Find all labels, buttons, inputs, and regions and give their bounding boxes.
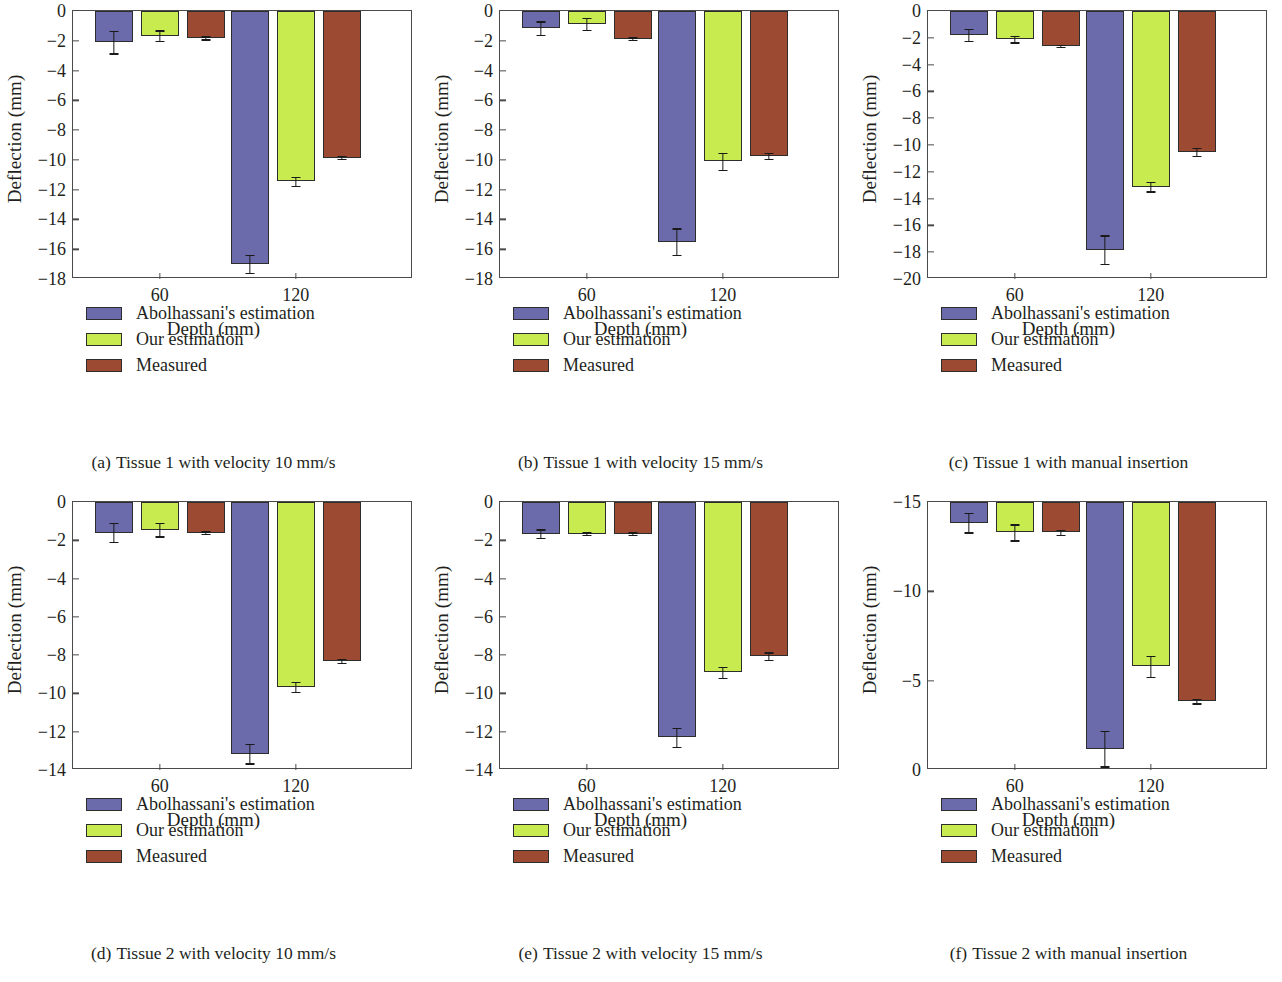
chart-b: Deflection (mm)0−2−4−6−8−10−12−14−16−186… [427, 0, 854, 300]
y-tick-mark [928, 91, 934, 92]
error-bar-cap [1010, 540, 1019, 541]
error-bar-cap [1056, 45, 1065, 46]
plot-area: 0−2−4−6−8−10−12−14−16−1860120 [72, 10, 412, 278]
bar-b-120-s0 [658, 11, 696, 242]
bar-c-120-s1 [1132, 11, 1170, 187]
y-tick-mark [73, 616, 79, 617]
error-bar [1150, 656, 1151, 677]
error-bar-cap [964, 532, 973, 533]
y-tick-mark [500, 159, 506, 160]
error-bar-cap [155, 30, 164, 31]
error-bar-cap [245, 744, 254, 745]
legend-f: Abolhassani's estimationOur estimationMe… [855, 791, 1282, 869]
error-bar-cap [536, 35, 545, 36]
y-tick-label: −16 [893, 215, 928, 236]
y-tick-label: −4 [47, 60, 73, 81]
error-bar-cap [628, 532, 637, 533]
bar-d-60-s2 [187, 502, 225, 533]
error-bar [586, 18, 587, 30]
error-bar-cap [582, 30, 591, 31]
error-bar-cap [964, 41, 973, 42]
error-bar-cap [291, 682, 300, 683]
plot-area: −15−10−5060120 [927, 501, 1267, 769]
panel-caption-e: (e)Tissue 2 with velocity 15 mm/s [427, 943, 854, 964]
error-bar-cap [628, 37, 637, 38]
y-tick-label: −14 [893, 188, 928, 209]
error-bar [722, 667, 723, 678]
y-tick-mark [500, 693, 506, 694]
bar-c-120-s0 [1086, 11, 1124, 250]
error-bar-cap [718, 667, 727, 668]
y-tick-mark [73, 189, 79, 190]
y-tick-label: −2 [47, 30, 73, 51]
legend-item: Measured [0, 352, 427, 378]
y-tick-mark [500, 100, 506, 101]
legend-item: Measured [0, 843, 427, 869]
y-axis-label: Deflection (mm) [429, 491, 455, 769]
x-tick-mark [159, 764, 160, 770]
error-bar-cap [672, 228, 681, 229]
y-tick-label: −2 [474, 30, 500, 51]
chart-panel-b: Deflection (mm)0−2−4−6−8−10−12−14−16−186… [427, 0, 854, 491]
error-bar-cap [1192, 156, 1201, 157]
figure-sheet: Deflection (mm)0−2−4−6−8−10−12−14−16−186… [0, 0, 1282, 982]
y-tick-label: −16 [38, 239, 73, 260]
y-tick-label: 0 [912, 760, 928, 781]
legend-label: Abolhassani's estimation [136, 303, 315, 324]
legend-item: Our estimation [427, 326, 854, 352]
legend-swatch [86, 850, 122, 863]
error-bar-cap [109, 53, 118, 54]
legend-label: Our estimation [136, 820, 243, 841]
legend-item: Our estimation [0, 326, 427, 352]
error-bar-cap [672, 747, 681, 748]
y-tick-label: −14 [38, 760, 73, 781]
y-tick-mark [500, 578, 506, 579]
legend-label: Abolhassani's estimation [136, 794, 315, 815]
panel-caption-text: Tissue 1 with velocity 15 mm/s [543, 452, 763, 472]
legend-c: Abolhassani's estimationOur estimationMe… [855, 300, 1282, 378]
y-tick-label: −8 [902, 108, 928, 129]
y-tick-label: −10 [465, 149, 500, 170]
y-axis-label-text: Deflection (mm) [859, 75, 881, 204]
y-tick-mark [73, 654, 79, 655]
y-tick-mark [500, 40, 506, 41]
error-bar-cap [1010, 42, 1019, 43]
y-tick-label: −8 [47, 120, 73, 141]
error-bar-cap [1146, 656, 1155, 657]
error-bar-cap [1100, 235, 1109, 236]
error-bar-cap [964, 29, 973, 30]
error-bar-cap [1056, 535, 1065, 536]
bar-a-120-s0 [231, 11, 269, 264]
y-axis-label: Deflection (mm) [2, 491, 28, 769]
error-bar-cap [155, 523, 164, 524]
error-bar-cap [337, 159, 346, 160]
chart-d: Deflection (mm)0−2−4−6−8−10−12−1460120De… [0, 491, 427, 791]
y-tick-mark [500, 219, 506, 220]
y-tick-label: −2 [902, 27, 928, 48]
error-bar [540, 21, 541, 34]
error-bar-cap [337, 156, 346, 157]
error-bar-cap [291, 186, 300, 187]
y-tick-mark [500, 616, 506, 617]
y-tick-label: −10 [38, 149, 73, 170]
error-bar [113, 523, 114, 542]
panel-caption-c: (c)Tissue 1 with manual insertion [855, 452, 1282, 473]
bar-e-120-s0 [658, 502, 696, 737]
y-tick-mark [500, 731, 506, 732]
error-bar [968, 29, 969, 41]
legend-swatch [941, 359, 977, 372]
panel-caption-index: (a) [91, 452, 110, 472]
error-bar-cap [337, 659, 346, 660]
legend-label: Abolhassani's estimation [563, 794, 742, 815]
y-tick-label: 0 [484, 492, 500, 513]
error-bar-cap [582, 535, 591, 536]
y-tick-mark [73, 540, 79, 541]
bar-e-60-s1 [568, 502, 606, 534]
error-bar-cap [1010, 524, 1019, 525]
chart-f: Deflection (mm)−15−10−5060120Depth (mm) [855, 491, 1282, 791]
error-bar [722, 153, 723, 169]
panel-caption-index: (f) [950, 943, 967, 963]
y-tick-label: −12 [893, 161, 928, 182]
bar-a-60-s2 [187, 11, 225, 38]
legend-label: Measured [991, 355, 1062, 376]
